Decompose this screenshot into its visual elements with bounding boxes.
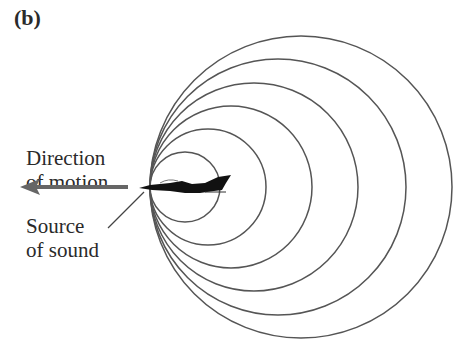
jet-aircraft-icon — [139, 175, 231, 193]
direction-arrow-icon — [20, 179, 128, 195]
source-leader-line — [108, 192, 144, 228]
wavefront-diagram — [0, 0, 465, 354]
